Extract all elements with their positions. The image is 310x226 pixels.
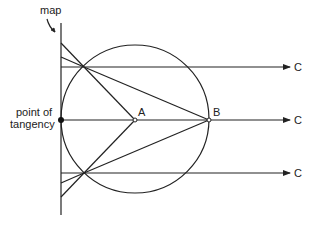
ray-B-top — [84, 67, 209, 120]
label-C-bottom: C — [294, 167, 302, 179]
ray-A-top — [84, 67, 135, 120]
label-C-top: C — [294, 61, 302, 73]
ext-B-top — [61, 57, 84, 67]
ray-A-bottom — [84, 120, 135, 173]
tangency-label-line2: tangency — [10, 118, 55, 130]
ext-B-bottom — [61, 173, 84, 183]
label-B: B — [213, 106, 220, 118]
ext-A-top — [61, 43, 84, 67]
tangency-label-line1: point of — [16, 106, 52, 118]
ray-B-bottom — [84, 120, 209, 173]
point-A — [133, 118, 137, 122]
label-A: A — [138, 106, 145, 118]
point-B — [207, 118, 211, 122]
tangency-point — [58, 117, 64, 123]
label-C-middle: C — [294, 114, 302, 126]
map-label: map — [40, 4, 61, 16]
ext-A-bottom — [61, 173, 84, 197]
